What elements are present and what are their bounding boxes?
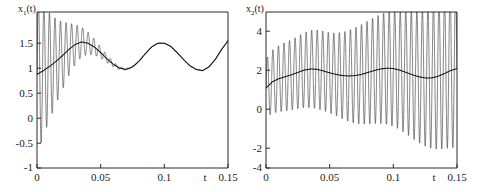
curves-left bbox=[37, 0, 228, 143]
y-axis-label-left: x1(t) bbox=[18, 3, 36, 17]
y-ticks-right: 4 2 0 -2 -4 bbox=[253, 25, 270, 173]
x-tick-label: 0 bbox=[263, 171, 269, 183]
y-tick-label: -0.5 bbox=[16, 137, 34, 149]
plot-panel-x2: x2(t) 4 2 0 -2 -4 bbox=[241, 0, 481, 192]
curves-right bbox=[266, 0, 457, 149]
y-axis-label-right: x2(t) bbox=[246, 3, 264, 17]
x-tick-label: 0.15 bbox=[447, 171, 467, 183]
ylabel-tail-left: (t) bbox=[27, 3, 36, 15]
figure-container: x1(t) 1.5 1 0.5 0 -0.5 -1 bbox=[0, 0, 481, 192]
y-tick-label: 1.5 bbox=[19, 37, 33, 49]
x-ticks-left: 0 0.05 0.1 0.15 t bbox=[34, 164, 238, 183]
plot-svg-right: x2(t) 4 2 0 -2 -4 bbox=[241, 0, 481, 192]
x-tick-label: 0.05 bbox=[91, 171, 111, 183]
y-tick-label: 2 bbox=[257, 64, 263, 76]
y-tick-label: -1 bbox=[24, 161, 33, 173]
x-axis-label-left: t bbox=[203, 171, 206, 183]
x-tick-label: 0 bbox=[34, 171, 40, 183]
svg-text:x1(t): x1(t) bbox=[18, 3, 36, 17]
y-tick-label: -4 bbox=[253, 161, 263, 173]
x-tick-label: 0.15 bbox=[218, 171, 238, 183]
plot-svg-left: x1(t) 1.5 1 0.5 0 -0.5 -1 bbox=[0, 0, 240, 192]
svg-text:x2(t): x2(t) bbox=[246, 3, 264, 17]
x-tick-label: 0.05 bbox=[320, 171, 340, 183]
y-tick-label: 1 bbox=[28, 62, 34, 74]
plot-frame-right bbox=[266, 12, 457, 168]
y-tick-label: 0.5 bbox=[19, 87, 33, 99]
plot-frame-left bbox=[37, 12, 228, 168]
y-tick-label: -2 bbox=[253, 142, 262, 154]
y-tick-label: 4 bbox=[257, 25, 263, 37]
x-ticks-right: 0 0.05 0.1 0.15 t bbox=[263, 164, 467, 183]
x-axis-label-right: t bbox=[432, 171, 435, 183]
ylabel-tail-right: (t) bbox=[255, 3, 264, 15]
y-tick-label: 0 bbox=[257, 103, 263, 115]
x-tick-label: 0.1 bbox=[386, 171, 400, 183]
x-tick-label: 0.1 bbox=[157, 171, 171, 183]
plot-panel-x1: x1(t) 1.5 1 0.5 0 -0.5 -1 bbox=[0, 0, 240, 192]
y-tick-label: 0 bbox=[28, 112, 34, 124]
